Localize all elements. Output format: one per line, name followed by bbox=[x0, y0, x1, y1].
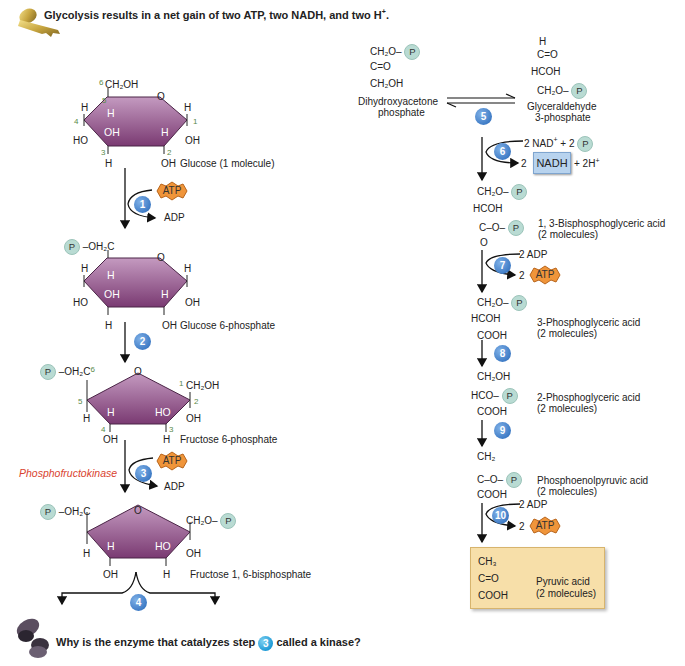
step-badge-4: 4 bbox=[130, 594, 147, 611]
glucose-ring-h-right: H bbox=[161, 127, 169, 138]
step-badge-2: 2 bbox=[134, 333, 151, 350]
pg2-line2: HCO– P bbox=[471, 388, 518, 404]
fructose6p-oh-bottom: OH bbox=[103, 434, 118, 445]
fructose16bp-h-bottom: H bbox=[163, 569, 170, 580]
formula-text: CH₂O– bbox=[477, 297, 509, 308]
bpg-line1: CH₂O– P bbox=[477, 184, 527, 200]
question-text-end: called a kinase? bbox=[276, 636, 360, 648]
g3p-line1: C=O bbox=[537, 49, 558, 60]
fructose6p-label: Fructose 6-phosphate bbox=[180, 434, 277, 445]
glucose-label: Glucose (1 molecule) bbox=[180, 158, 274, 169]
superscript: + bbox=[595, 157, 599, 164]
phosphate-icon: P bbox=[220, 513, 236, 529]
fructose6p-ring-oxygen: O bbox=[134, 366, 142, 377]
glucose6p-h-left: H bbox=[81, 263, 88, 274]
carbon-number-2: 2 bbox=[167, 147, 171, 158]
step6-output-coef: 2 bbox=[521, 158, 527, 169]
pep-line1: CH₂ bbox=[477, 451, 495, 462]
fructose6p-phosphate-group: P –OH₂C6 bbox=[40, 364, 95, 380]
carbon-number-1: 1 bbox=[179, 378, 183, 389]
dhap-line3: CH₂OH bbox=[370, 78, 403, 89]
bpg-line4: O bbox=[480, 237, 488, 248]
adp-label-step1: ADP bbox=[164, 212, 185, 223]
fructose16bp-ring-h: H bbox=[107, 541, 115, 552]
phosphate-icon: P bbox=[64, 239, 80, 255]
fructose16bp-ring-oxygen: O bbox=[134, 505, 142, 516]
glucose6p-ring-h-right: H bbox=[161, 289, 169, 300]
phosphate-icon: P bbox=[571, 83, 587, 99]
atp-badge-step3: ATP bbox=[154, 451, 190, 471]
glucose6p-label: Glucose 6-phosphate bbox=[180, 320, 275, 331]
bpg-line3: C–O– P bbox=[479, 220, 524, 236]
title-period: . bbox=[386, 9, 389, 21]
glucose6p-ring bbox=[84, 258, 187, 307]
atp-badge-step1: ATP bbox=[154, 181, 190, 201]
pg2-line1: CH₂OH bbox=[477, 371, 510, 382]
bpg-name-line1: 1, 3-Bisphosphoglyceric acid bbox=[538, 218, 665, 229]
phosphate-icon: P bbox=[508, 220, 524, 236]
fructose6p-oh-right: OH bbox=[186, 413, 201, 424]
group-text: CH₂O– bbox=[186, 515, 218, 526]
pep-name-line1: Phosphoenolpyruvic acid bbox=[537, 475, 648, 486]
formula-text: CH₂O– bbox=[477, 186, 509, 197]
title-text: Glycolysis results in a net gain of two … bbox=[44, 9, 382, 21]
fructose16bp-phosphate-right: CH₂O– P bbox=[186, 513, 236, 529]
atp-label: ATP bbox=[154, 451, 190, 471]
question-text-start: Why is the enzyme that catalyzes step bbox=[56, 636, 255, 648]
fructose16bp-oh-right: OH bbox=[186, 548, 201, 559]
glucose-ch2oh: CH₂OH bbox=[105, 79, 138, 90]
fructose6p-h-bottom: H bbox=[163, 434, 170, 445]
step6-input: 2 NAD+ + 2 P bbox=[524, 136, 593, 152]
carbon-number-5: 5 bbox=[78, 396, 82, 407]
atp-badge-step10: ATP bbox=[527, 516, 563, 536]
dhap-name-line1: Dihydroxyacetone bbox=[358, 96, 438, 107]
g3p-line2: HCOH bbox=[531, 66, 560, 77]
carbon-number-3: 3 bbox=[101, 147, 105, 158]
question-mark-icon bbox=[14, 615, 49, 658]
glucose6p-oh-right: OH bbox=[185, 297, 200, 308]
phosphate-icon: P bbox=[511, 184, 527, 200]
carbon-number-2: 2 bbox=[194, 396, 198, 407]
pg2-name-line2: (2 molecules) bbox=[537, 403, 597, 414]
pyruvate-name-line1: Pyruvic acid bbox=[536, 576, 590, 587]
phosphate-icon: P bbox=[502, 388, 518, 404]
nadh-box: NADH bbox=[533, 152, 571, 174]
step-badge-6: 6 bbox=[494, 143, 511, 160]
key-concept-title: Glycolysis results in a net gain of two … bbox=[44, 10, 389, 21]
h-plus-text: + 2H bbox=[574, 158, 595, 169]
g3p-line3: CH₂O– P bbox=[537, 83, 587, 99]
glucose-h-left: H bbox=[81, 102, 88, 113]
step-badge-9: 9 bbox=[494, 422, 511, 439]
nad-label: 2 NAD bbox=[524, 138, 553, 149]
pep-line3: COOH bbox=[477, 489, 507, 500]
plus-text: + 2 bbox=[558, 138, 575, 149]
step-badge-3: 3 bbox=[135, 465, 152, 482]
glucose6p-ring-oxygen: O bbox=[157, 252, 165, 263]
step10-output-coef: 2 bbox=[519, 521, 525, 532]
bpg-line2: HCOH bbox=[473, 203, 502, 214]
pyruvate-line1: CH₃ bbox=[478, 556, 497, 567]
formula-text: HCO– bbox=[471, 390, 499, 401]
formula-text: C–O– bbox=[477, 474, 503, 485]
fructose16bp-h-left: H bbox=[83, 548, 90, 559]
step6-output-extra: + 2H+ bbox=[574, 158, 600, 169]
atp-label: ATP bbox=[527, 516, 563, 536]
pyruvate-name-line2: (2 molecules) bbox=[536, 588, 596, 599]
formula-text: CH₂O– bbox=[370, 46, 402, 57]
fructose16bp-oh-bottom: OH bbox=[103, 569, 118, 580]
step-badge-8: 8 bbox=[494, 345, 511, 362]
step-badge-5: 5 bbox=[475, 108, 492, 125]
enzyme-label-phosphofructokinase: Phosphofructokinase bbox=[19, 468, 117, 479]
glucose6p-oh-bottom: OH bbox=[162, 320, 177, 331]
group-text: –OH₂C bbox=[59, 366, 91, 377]
pg2-line3: COOH bbox=[477, 406, 507, 417]
dhap-line1: CH₂O– P bbox=[370, 44, 420, 60]
g3p-name-line1: Glyceraldehyde bbox=[527, 101, 596, 112]
adp-label-step3: ADP bbox=[164, 481, 185, 492]
critical-thinking-question: Why is the enzyme that catalyzes step 3 … bbox=[56, 636, 361, 651]
step10-input: 2 ADP bbox=[519, 499, 547, 510]
step-badge-3-inline: 3 bbox=[258, 636, 273, 651]
atp-label: ATP bbox=[527, 265, 563, 285]
glucose6p-h-right: H bbox=[184, 263, 191, 274]
carbon-number-1: 1 bbox=[193, 116, 197, 127]
